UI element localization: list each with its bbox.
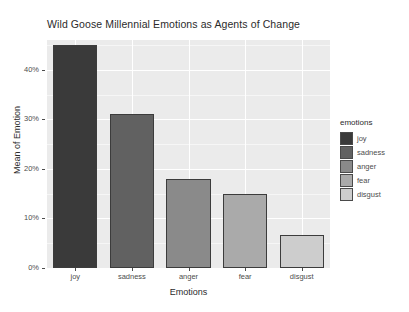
y-axis-tick-mark (42, 70, 45, 71)
legend-item[interactable]: sadness (340, 145, 408, 159)
legend-item[interactable]: joy (340, 131, 408, 145)
x-axis-tick-label: disgust (290, 272, 314, 281)
x-axis-tick-labels: joysadnessangerfeardisgust (47, 272, 330, 284)
bar[interactable] (223, 194, 267, 268)
y-axis-tick-mark (42, 119, 45, 120)
legend-swatch-icon (340, 146, 353, 159)
bar[interactable] (110, 114, 154, 268)
legend-item-label: joy (357, 134, 367, 143)
legend-swatch-icon (340, 160, 353, 173)
x-axis-tick-label: joy (71, 272, 81, 281)
x-axis-tick-label: anger (179, 272, 198, 281)
y-axis-tick-label: 10% (11, 214, 39, 222)
legend-item-label: fear (357, 176, 370, 185)
legend-item[interactable]: fear (340, 173, 408, 187)
x-axis-tick-mark (132, 268, 133, 271)
bar[interactable] (166, 179, 210, 268)
bar-chart: Wild Goose Millennial Emotions as Agents… (0, 0, 409, 312)
y-axis-tick-mark (42, 268, 45, 269)
legend-swatch-icon (340, 132, 353, 145)
x-axis-tick-label: fear (239, 272, 252, 281)
bar[interactable] (53, 45, 97, 268)
y-axis-title: Mean of Emotion (12, 75, 22, 205)
chart-title: Wild Goose Millennial Emotions as Agents… (47, 18, 347, 30)
bars-group (47, 40, 330, 268)
legend-item-label: disgust (357, 190, 381, 199)
legend-item-label: anger (357, 162, 376, 171)
y-axis-tick-label: 0% (11, 264, 39, 272)
y-axis-tick-mark (42, 218, 45, 219)
y-axis-tick-label: 40% (11, 66, 39, 74)
x-axis-title: Emotions (47, 287, 330, 297)
x-axis-tick-mark (75, 268, 76, 271)
y-axis-tick-mark (42, 169, 45, 170)
x-axis-tick-mark (189, 268, 190, 271)
legend: emotions joysadnessangerfeardisgust (340, 118, 408, 201)
legend-title: emotions (340, 118, 408, 127)
legend-item-label: sadness (357, 148, 385, 157)
legend-item[interactable]: disgust (340, 187, 408, 201)
x-axis-tick-mark (302, 268, 303, 271)
legend-swatch-icon (340, 188, 353, 201)
x-axis-tick-label: sadness (118, 272, 146, 281)
legend-item[interactable]: anger (340, 159, 408, 173)
bar[interactable] (280, 235, 324, 268)
plot-panel (47, 40, 330, 268)
x-axis-tick-mark (245, 268, 246, 271)
legend-swatch-icon (340, 174, 353, 187)
legend-items: joysadnessangerfeardisgust (340, 131, 408, 201)
